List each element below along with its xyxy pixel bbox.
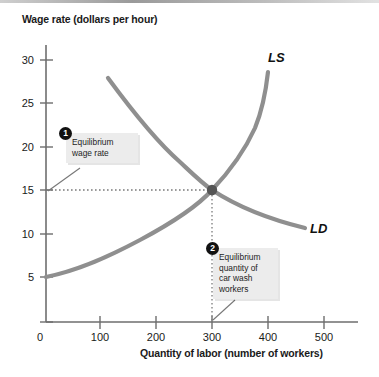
x-tick-label-100: 100: [91, 331, 109, 343]
y-tick-label-25: 25: [22, 97, 34, 109]
y-tick-label-20: 20: [22, 141, 34, 153]
callout-2-leader-line: [213, 300, 235, 320]
callout-2-number-badge: 2: [206, 242, 219, 255]
x-tick-label-200: 200: [147, 331, 165, 343]
wage-rate-labor-market-figure: Wage rate (dollars per hour) 30 25 20 15: [0, 0, 379, 377]
callout-1-number-badge: 1: [59, 127, 72, 140]
x-tick-label-400: 400: [259, 331, 277, 343]
labor-supply-curve: [46, 72, 268, 277]
y-tick-label-5: 5: [28, 271, 34, 283]
chart-plot-area: 30 25 20 15 10 5 0 100 200 300 400 500 L…: [0, 0, 379, 377]
y-tick-label-10: 10: [22, 228, 34, 240]
labor-supply-label: LS: [268, 50, 285, 65]
equilibrium-point-marker: [207, 185, 217, 195]
x-tick-label-500: 500: [315, 331, 333, 343]
y-tick-label-30: 30: [22, 54, 34, 66]
callout-equilibrium-quantity: Equilibrium quantity of car wash workers: [213, 248, 278, 299]
labor-demand-label: LD: [310, 221, 328, 236]
y-tick-label-15: 15: [22, 184, 34, 196]
x-tick-label-300: 300: [203, 331, 221, 343]
x-tick-label-0: 0: [37, 331, 43, 343]
callout-equilibrium-wage-rate: Equilibrium wage rate: [66, 133, 138, 163]
callout-1-leader-line: [48, 168, 80, 191]
x-axis-title: Quantity of labor (number of workers): [140, 347, 323, 359]
